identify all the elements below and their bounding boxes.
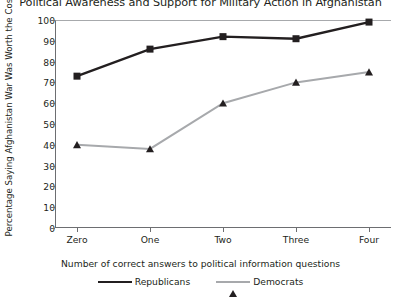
x-tick-mark xyxy=(150,228,151,232)
x-tick-mark xyxy=(77,228,78,232)
x-tick-label: Two xyxy=(214,234,231,245)
x-tick-mark xyxy=(223,228,224,232)
republicans-line xyxy=(77,22,369,76)
x-tick-label: Zero xyxy=(66,234,87,245)
x-axis-label: Number of correct answers to political i… xyxy=(0,258,401,269)
series-layer xyxy=(0,0,401,298)
triangle-marker-icon xyxy=(229,279,237,290)
data-point-square xyxy=(366,19,373,26)
republicans-legend-swatch xyxy=(98,277,132,287)
series-democrats xyxy=(73,68,373,152)
democrats-legend-swatch xyxy=(216,277,250,287)
legend-item-republicans: Republicans xyxy=(98,276,191,287)
x-tick-mark xyxy=(369,228,370,232)
republicans-markers xyxy=(74,19,373,80)
legend-label-republicans: Republicans xyxy=(135,276,191,287)
legend-item-democrats: Democrats xyxy=(216,276,303,287)
series-republicans xyxy=(74,19,373,80)
data-point-square xyxy=(293,35,300,42)
data-point-square xyxy=(147,46,154,53)
legend-label-democrats: Democrats xyxy=(253,276,303,287)
democrats-line xyxy=(77,72,369,149)
democrats-markers xyxy=(73,68,373,152)
x-tick-label: Three xyxy=(283,234,309,245)
data-point-square xyxy=(220,33,227,40)
x-tick-label: Four xyxy=(359,234,379,245)
x-tick-mark xyxy=(296,228,297,232)
chart-legend: Republicans Democrats xyxy=(0,276,401,287)
data-point-square xyxy=(74,73,81,80)
x-tick-label: One xyxy=(141,234,160,245)
line-swatch-icon xyxy=(98,281,132,283)
chart-figure: Political Awareness and Support for Mili… xyxy=(0,0,401,298)
